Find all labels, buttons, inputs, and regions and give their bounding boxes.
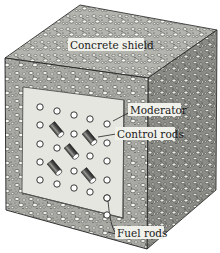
svg-text:Concrete shield: Concrete shield bbox=[70, 39, 154, 51]
reactor-diagram: Concrete shield Moderator Control rods F… bbox=[0, 0, 220, 253]
fuel-rod bbox=[104, 212, 110, 218]
label-concrete-shield: Concrete shield bbox=[68, 38, 154, 51]
svg-text:Moderator: Moderator bbox=[130, 104, 188, 116]
label-moderator: Moderator bbox=[128, 103, 188, 116]
label-control-rods: Control rods bbox=[115, 127, 184, 140]
label-fuel-rods: Fuel rods bbox=[115, 226, 167, 239]
svg-text:Control rods: Control rods bbox=[117, 128, 184, 140]
svg-text:Fuel rods: Fuel rods bbox=[117, 227, 167, 239]
